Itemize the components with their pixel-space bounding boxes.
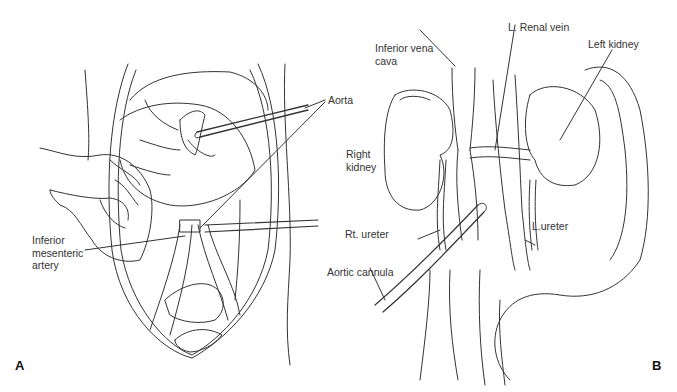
- panel-a-drawing: [40, 64, 325, 365]
- label-ivc-line-1: Inferior vena: [375, 42, 433, 55]
- panel-letter-a: A: [15, 358, 24, 373]
- label-rt-ureter: Rt. ureter: [345, 228, 389, 241]
- label-left-renal-vein: L. Renal vein: [508, 21, 569, 34]
- label-right-kidney: Right kidney: [346, 148, 376, 173]
- panel-b-drawing: [370, 25, 648, 385]
- label-ima-line-1: Inferior: [32, 234, 83, 247]
- label-left-kidney: Left kidney: [588, 38, 639, 51]
- label-ima-line-3: artery: [32, 259, 83, 272]
- label-right-kidney-line-2: kidney: [346, 161, 376, 174]
- panel-letter-b: B: [652, 358, 661, 373]
- label-l-ureter: L.ureter: [532, 220, 568, 233]
- label-inferior-vena-cava: Inferior vena cava: [375, 42, 433, 67]
- label-ima-line-2: mesenteric: [32, 247, 83, 260]
- label-aortic-cannula: Aortic cannula: [327, 266, 394, 279]
- anatomical-illustration: [0, 0, 677, 392]
- label-ivc-line-2: cava: [375, 55, 433, 68]
- label-inferior-mesenteric-artery: Inferior mesenteric artery: [32, 234, 83, 272]
- label-right-kidney-line-1: Right: [346, 148, 376, 161]
- label-aorta: Aorta: [328, 94, 353, 107]
